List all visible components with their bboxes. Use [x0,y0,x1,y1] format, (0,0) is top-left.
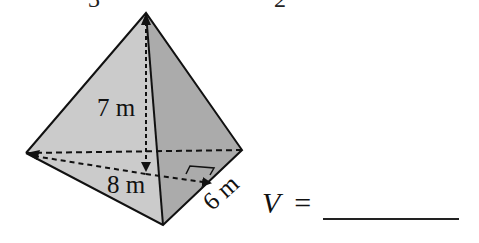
volume-variable: V [262,186,280,220]
volume-answer: V = [262,186,459,220]
answer-blank[interactable] [323,192,459,220]
base-side-label: 8 m [107,172,145,197]
equals-sign: = [294,186,311,220]
height-label: 7 m [97,95,135,120]
